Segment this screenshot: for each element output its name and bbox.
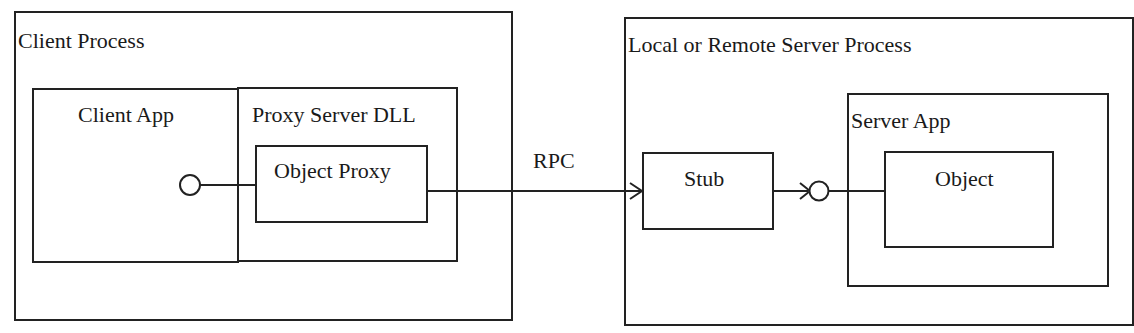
server-interface-icon bbox=[810, 182, 829, 201]
client-interface-icon bbox=[180, 175, 200, 195]
